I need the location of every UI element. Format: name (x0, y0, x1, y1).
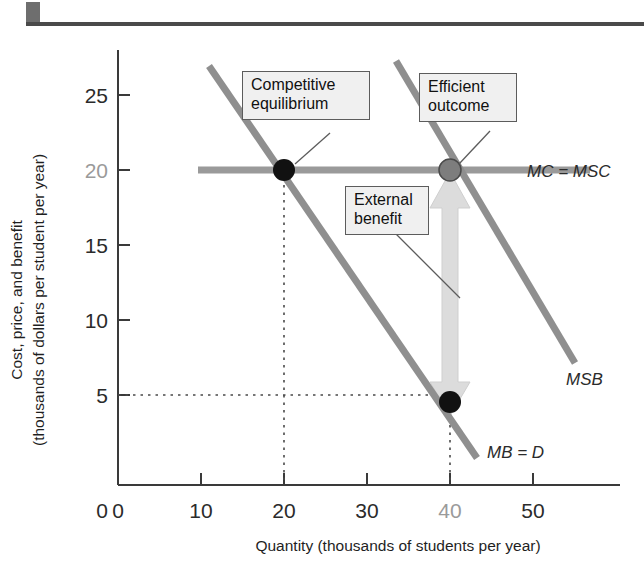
label-mc-msc: MC = MSC (527, 162, 611, 181)
y-axis-title-line2: (thousands of dollars per student per ye… (30, 154, 47, 446)
leader-line-competitive (295, 133, 330, 164)
label-msb: MSB (566, 370, 603, 389)
x-tick-label-50: 50 (521, 499, 544, 522)
x-tick-label-0: 0 (112, 499, 124, 522)
x-tick-label-40: 40 (438, 499, 461, 522)
point-mb-at-efficient-quantity (439, 391, 461, 413)
figure-root: Cost, price, and benefit (thousands of d… (0, 0, 644, 569)
y-tick-label-20: 20 (85, 159, 108, 182)
header-rule (26, 22, 644, 26)
external-benefit-arrow (430, 172, 470, 416)
point-efficient-outcome (439, 159, 461, 181)
point-competitive-equilibrium (273, 159, 295, 181)
callout-external-benefit: External benefit (345, 186, 429, 235)
y-tick-label-25: 25 (85, 84, 108, 107)
x-axis-title: Quantity (thousands of students per year… (255, 537, 540, 554)
y-tick-label-0: 0 (96, 499, 108, 522)
callout-efficient-outcome: Efficient outcome (419, 73, 517, 122)
x-tick-label-30: 30 (355, 499, 378, 522)
leader-line-efficient (459, 131, 490, 164)
y-axis-title-line1: Cost, price, and benefit (8, 220, 25, 380)
y-tick-label-10: 10 (85, 309, 108, 332)
y-tick-label-15: 15 (85, 234, 108, 257)
x-tick-label-10: 10 (189, 499, 212, 522)
callout-competitive-equilibrium: Competitive equilibrium (242, 71, 370, 120)
x-tick-label-20: 20 (272, 499, 295, 522)
y-tick-label-5: 5 (96, 384, 108, 407)
header-block-mark (26, 2, 40, 24)
label-mb-d: MB = D (487, 443, 544, 462)
